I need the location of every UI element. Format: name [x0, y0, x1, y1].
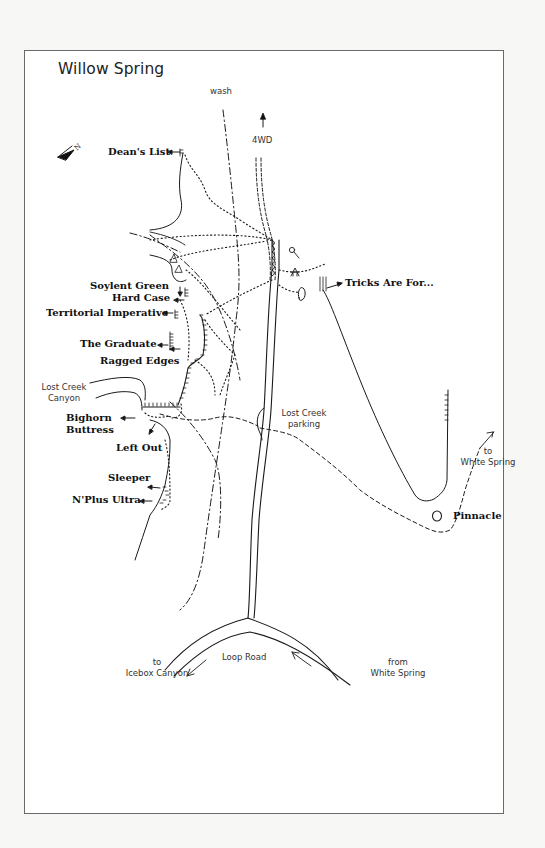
route-label-left-out[interactable]: Left Out	[116, 442, 162, 454]
route-label-hard-case[interactable]: Hard Case	[112, 292, 170, 304]
toilet-icon	[289, 247, 299, 258]
route-label-deans-list[interactable]: Dean's List	[108, 146, 170, 158]
route-label-pinnacle[interactable]: Pinnacle	[453, 510, 502, 522]
route-label-tricks-are-for[interactable]: Tricks Are For...	[345, 277, 434, 289]
route-label-territorial-imperative[interactable]: Territorial Imperative	[46, 307, 168, 319]
route-label-soylent-green[interactable]: Soylent Green	[90, 280, 169, 292]
route-label-sleeper[interactable]: Sleeper	[108, 472, 150, 484]
map-title: Willow Spring	[58, 60, 164, 78]
route-label-ragged-edges[interactable]: Ragged Edges	[100, 355, 179, 367]
wash-line	[180, 110, 239, 610]
svg-text:N: N	[73, 142, 83, 152]
label-lost-creek-canyon: Lost Creek Canyon	[37, 382, 91, 403]
label-4wd: 4WD	[252, 135, 272, 146]
pinnacle-boulder-icon	[433, 511, 442, 521]
boulder-icon	[298, 288, 305, 301]
north-arrow-icon: N	[58, 142, 83, 160]
4wd-road	[256, 158, 270, 280]
graduate-cliff	[178, 315, 204, 405]
route-label-bighorn-buttress[interactable]: Bighorn Buttress	[66, 412, 114, 436]
route-label-nplus-ultra[interactable]: N'Plus Ultra	[72, 494, 141, 506]
picnic-shelter-icon	[291, 268, 299, 276]
label-wash: wash	[210, 86, 232, 97]
label-loop-road: Loop Road	[222, 652, 266, 663]
route-label-the-graduate[interactable]: The Graduate	[80, 338, 157, 350]
label-to-white-spring: to White Spring	[458, 446, 518, 467]
label-from-white-spring: from White Spring	[366, 657, 430, 678]
tricks-cliff	[323, 290, 448, 501]
label-to-icebox-canyon: to Icebox Canyon	[122, 657, 192, 678]
deans-list-cliff	[150, 153, 183, 230]
label-lost-creek-parking: Lost Creek parking	[274, 408, 334, 429]
